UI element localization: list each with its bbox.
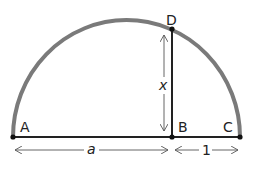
semicircle-arc: [13, 20, 240, 137]
label-x: x: [158, 77, 168, 93]
label-a-length: a: [87, 141, 96, 157]
label-b: B: [178, 119, 188, 135]
label-d: D: [166, 12, 177, 28]
semicircle-diagram: A B C D x a 1: [0, 0, 254, 172]
label-a: A: [20, 119, 30, 135]
point-a: [10, 134, 15, 139]
label-one-length: 1: [202, 142, 211, 158]
point-c: [237, 134, 242, 139]
point-b: [169, 134, 174, 139]
label-c: C: [223, 119, 233, 135]
